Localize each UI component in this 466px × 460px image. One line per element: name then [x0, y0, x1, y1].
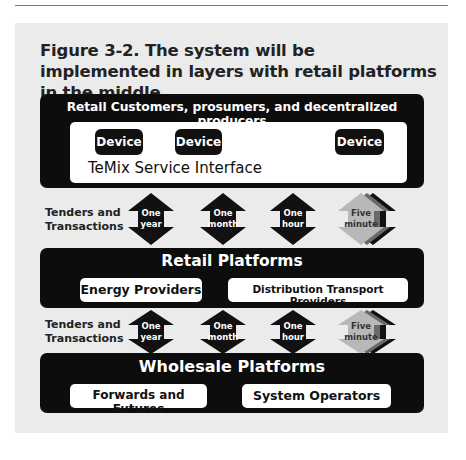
arrow-label: One [126, 321, 176, 332]
transactions-label: Tenders and Transactions [45, 318, 123, 346]
temix-interface-box: Device Device Device TeMix Service Inter… [70, 122, 407, 183]
distribution-providers-label: Distribution Transport Providers [228, 283, 408, 307]
arrow-label: minute [336, 219, 386, 230]
wholesale-platforms-header: Wholesale Platforms [40, 357, 424, 376]
arrow-label: year [126, 219, 176, 230]
transactions-label-line1: Tenders and [45, 318, 123, 332]
device-box: Device [95, 129, 143, 155]
arrow-one-month: Onemonth [198, 193, 248, 245]
arrow-label: One [268, 321, 318, 332]
arrow-label: hour [268, 219, 318, 230]
arrow-one-year: Oneyear [126, 193, 176, 245]
transactions-label-line2: Transactions [45, 220, 123, 234]
transactions-label: Tenders and Transactions [45, 206, 123, 234]
arrow-label: One [198, 208, 248, 219]
energy-providers-label: Energy Providers [80, 282, 202, 297]
distribution-providers-box: Distribution Transport Providers [228, 278, 408, 302]
arrow-label: year [126, 332, 176, 343]
system-operators-box: System Operators [242, 384, 391, 408]
retail-platforms-layer: Retail Platforms Energy Providers Distri… [40, 248, 424, 308]
arrow-label: minute [336, 332, 386, 343]
arrow-label: One [268, 208, 318, 219]
arrow-five-minute: Fiveminute [336, 310, 398, 354]
page-header-rule [15, 5, 448, 6]
temix-interface-label: TeMix Service Interface [88, 159, 262, 177]
system-operators-label: System Operators [242, 388, 391, 403]
forwards-futures-box: Forwards and Futures [70, 384, 207, 408]
arrow-label: One [198, 321, 248, 332]
arrow-label: Five [336, 321, 386, 332]
arrow-label: Five [336, 208, 386, 219]
device-box: Device [335, 129, 384, 155]
arrow-one-year: Oneyear [126, 310, 176, 354]
transactions-label-line1: Tenders and [45, 206, 123, 220]
forwards-futures-label: Forwards and Futures [70, 388, 207, 416]
wholesale-platforms-layer: Wholesale Platforms Forwards and Futures… [40, 353, 424, 413]
arrow-label: hour [268, 332, 318, 343]
arrow-five-minute: Fiveminute [336, 193, 398, 245]
transactions-label-line2: Transactions [45, 332, 123, 346]
retail-platforms-header: Retail Platforms [40, 252, 424, 270]
customers-layer: Retail Customers, prosumers, and decentr… [40, 94, 424, 188]
arrow-one-hour: Onehour [268, 193, 318, 245]
energy-providers-box: Energy Providers [80, 278, 202, 302]
arrow-label: month [198, 332, 248, 343]
arrow-one-hour: Onehour [268, 310, 318, 354]
arrow-label: month [198, 219, 248, 230]
arrow-label: One [126, 208, 176, 219]
arrow-one-month: Onemonth [198, 310, 248, 354]
device-box: Device [175, 129, 222, 155]
